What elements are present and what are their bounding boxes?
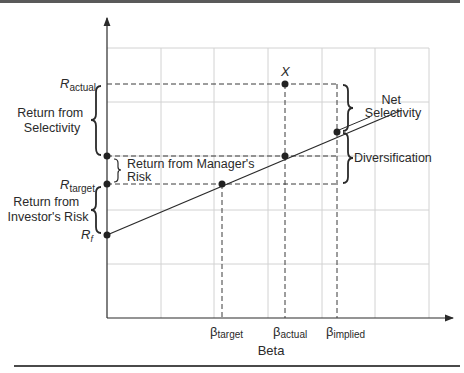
x-axis-title: Beta bbox=[258, 343, 286, 358]
point-y-156 bbox=[104, 153, 111, 160]
label-diversification: Diversification bbox=[354, 151, 432, 165]
brace-net-selectivity bbox=[343, 85, 353, 131]
label-beta-actual: βactual bbox=[273, 324, 307, 340]
grid bbox=[107, 48, 429, 318]
brace-managers-risk bbox=[114, 159, 121, 182]
point-rf bbox=[104, 232, 111, 239]
brace-diversification bbox=[343, 133, 353, 183]
label-r-f: Rf bbox=[81, 227, 94, 244]
label-beta-implied: βimplied bbox=[326, 324, 365, 340]
label-r-target: Rtarget bbox=[60, 177, 95, 194]
dashed-guides bbox=[107, 84, 337, 318]
brace-selectivity bbox=[91, 86, 101, 155]
point-y-184 bbox=[104, 181, 111, 188]
label-net-selectivity: Net Selectivity bbox=[365, 93, 422, 120]
label-investors-risk: Return from Investor's Risk bbox=[8, 195, 90, 224]
label-selectivity: Return from Selectivity bbox=[17, 106, 86, 135]
point-x bbox=[282, 81, 289, 88]
label-x-point: X bbox=[280, 64, 291, 79]
label-r-actual: Ractual bbox=[60, 76, 96, 93]
point-actual-on-line bbox=[282, 153, 289, 160]
point-target bbox=[219, 181, 226, 188]
label-beta-target: βtarget bbox=[210, 324, 243, 340]
performance-attribution-diagram: Ractual Rtarget Rf Return from Selectivi… bbox=[0, 0, 464, 373]
